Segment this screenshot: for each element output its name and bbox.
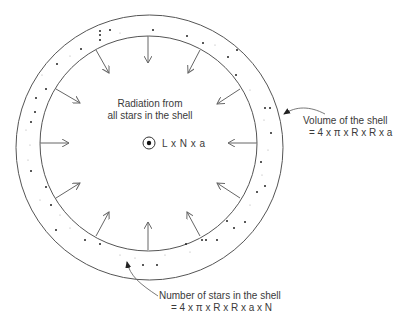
radiation-label-line2: all stars in the shell (102, 110, 198, 122)
volume-label-line2: = 4 x π x R x R x a (303, 127, 392, 139)
shell-faint-dots (25, 32, 268, 258)
center-label: L x N x a (162, 138, 205, 150)
stars-label: Number of stars in the shell = 4 x π x R… (159, 290, 281, 314)
stars-label-line1: Number of stars in the shell (159, 290, 281, 302)
center-observer-icon (143, 137, 155, 149)
radiation-label: Radiation from all stars in the shell (102, 98, 198, 122)
volume-label-line1: Volume of the shell (303, 115, 392, 127)
radiation-label-line1: Radiation from (102, 98, 198, 110)
shell-stars (30, 29, 272, 266)
outer-shell-circle (16, 15, 283, 280)
stars-label-line2: = 4 x π x R x R x a x N (159, 302, 281, 314)
volume-label: Volume of the shell = 4 x π x R x R x a (303, 115, 392, 139)
shell-diagram (0, 0, 403, 328)
volume-pointer (284, 108, 325, 114)
